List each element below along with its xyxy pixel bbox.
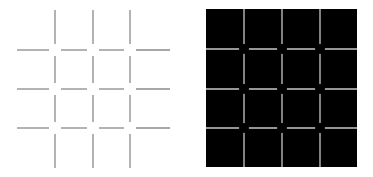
intersection-spot — [315, 84, 325, 94]
intersection-spot — [239, 123, 249, 133]
intersection-spot — [239, 44, 249, 54]
intersection-spot — [239, 84, 249, 94]
intersection-spot — [277, 44, 287, 54]
intersection-spot — [315, 44, 325, 54]
right-grid-panel — [206, 9, 357, 167]
intersection-spot — [315, 123, 325, 133]
grid-illusion-figure — [0, 0, 373, 177]
intersection-spot — [277, 123, 287, 133]
left-grid-panel — [17, 10, 170, 168]
intersection-spot — [277, 84, 287, 94]
